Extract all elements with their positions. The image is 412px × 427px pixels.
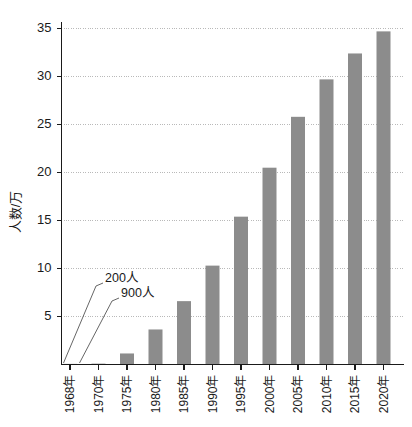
x-tick-label: 2015年 xyxy=(348,375,362,414)
x-tick-label: 1970年 xyxy=(92,375,106,414)
bar xyxy=(291,117,305,365)
x-tick-label: 1980年 xyxy=(149,375,163,414)
y-tick-label: 20 xyxy=(37,164,51,179)
bar xyxy=(234,217,248,365)
x-tick-label: 1985年 xyxy=(177,375,191,414)
x-tick-label: 2020年 xyxy=(377,375,391,414)
chart-canvas: 5101520253035 1968年1970年1975年1980年1985年1… xyxy=(0,0,412,427)
y-tick-label: 15 xyxy=(37,212,51,227)
x-tick-label: 2005年 xyxy=(291,375,305,414)
annotation-label-900: 900人 xyxy=(121,286,155,300)
bar-series xyxy=(63,31,391,364)
annotations: 200人 900人 xyxy=(64,271,155,363)
bar xyxy=(206,266,220,365)
bar xyxy=(177,301,191,364)
leader-line-200 xyxy=(64,283,104,363)
bar xyxy=(263,168,277,365)
x-tick-label: 1975年 xyxy=(120,375,134,414)
bar xyxy=(149,329,163,364)
bar-chart-figure: 5101520253035 1968年1970年1975年1980年1985年1… xyxy=(0,0,412,427)
y-axis-title: 人数/万 xyxy=(8,191,23,234)
y-tick-label: 30 xyxy=(37,68,51,83)
x-tick-label: 1990年 xyxy=(206,375,220,414)
x-axis-labels: 1968年1970年1975年1980年1985年1990年1995年2000年… xyxy=(63,375,391,414)
x-tick-label: 2010年 xyxy=(320,375,334,414)
y-tick-label: 5 xyxy=(44,308,51,323)
annotation-label-200: 200人 xyxy=(105,271,139,285)
leader-line-900 xyxy=(80,298,120,363)
bar xyxy=(377,31,391,364)
y-axis-ticks: 5101520253035 xyxy=(37,20,61,323)
bar xyxy=(320,79,334,364)
y-tick-label: 35 xyxy=(37,20,51,35)
y-tick-label: 10 xyxy=(37,260,51,275)
x-tick-label: 2000年 xyxy=(263,375,277,414)
bar xyxy=(120,353,134,364)
x-tick-label: 1968年 xyxy=(63,375,77,414)
bar xyxy=(348,53,362,364)
x-tick-label: 1995年 xyxy=(234,375,248,414)
y-tick-label: 25 xyxy=(37,116,51,131)
